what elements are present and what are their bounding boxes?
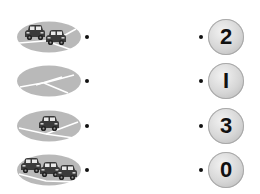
number-circle: 3 <box>208 108 244 144</box>
matching-row: 0 <box>0 154 260 194</box>
number-circle: 2 <box>208 19 244 55</box>
match-dot-right[interactable] <box>199 35 203 39</box>
match-dot-right[interactable] <box>199 124 203 128</box>
road-three-cars-icon <box>16 154 82 186</box>
match-dot-right[interactable] <box>199 168 203 172</box>
number-circle: I <box>208 63 244 99</box>
match-dot-left[interactable] <box>85 35 89 39</box>
matching-row: I <box>0 65 260 105</box>
match-dot-left[interactable] <box>85 79 89 83</box>
number-circle: 0 <box>208 152 244 188</box>
match-dot-left[interactable] <box>85 124 89 128</box>
match-dot-left[interactable] <box>85 168 89 172</box>
matching-row: 2 <box>0 21 260 61</box>
matching-row: 3 <box>0 110 260 150</box>
match-dot-right[interactable] <box>199 79 203 83</box>
road-two-cars-icon <box>16 21 82 53</box>
road-empty-icon <box>16 65 82 97</box>
road-one-car-icon <box>16 110 82 142</box>
